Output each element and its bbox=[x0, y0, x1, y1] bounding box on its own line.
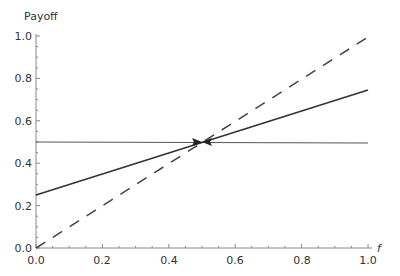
x-tick-label: 0.2 bbox=[93, 254, 111, 267]
y-tick-label: 0.4 bbox=[15, 157, 33, 170]
y-tick-label: 0.2 bbox=[15, 200, 33, 213]
y-tick-label: 0.6 bbox=[15, 115, 33, 128]
x-tick-label: 0.0 bbox=[27, 254, 45, 267]
y-tick-label: 0.8 bbox=[15, 72, 33, 85]
x-tick-label: 0.4 bbox=[160, 254, 178, 267]
x-tick-label: 0.8 bbox=[293, 254, 311, 267]
x-tick-label: 1.0 bbox=[359, 254, 377, 267]
x-tick-label: 0.6 bbox=[226, 254, 244, 267]
x-axis-title: f bbox=[377, 242, 383, 255]
tick-labels: 0.0 0.2 0.4 0.6 0.8 1.0 0.0 0.2 0.4 0.6 … bbox=[15, 30, 377, 267]
y-tick-label: 1.0 bbox=[15, 30, 33, 43]
payoff-chart: Payoff f 0.0 0.2 0.4 0.6 0.8 1.0 0.0 0.2… bbox=[0, 0, 400, 276]
y-axis-title: Payoff bbox=[24, 10, 58, 23]
